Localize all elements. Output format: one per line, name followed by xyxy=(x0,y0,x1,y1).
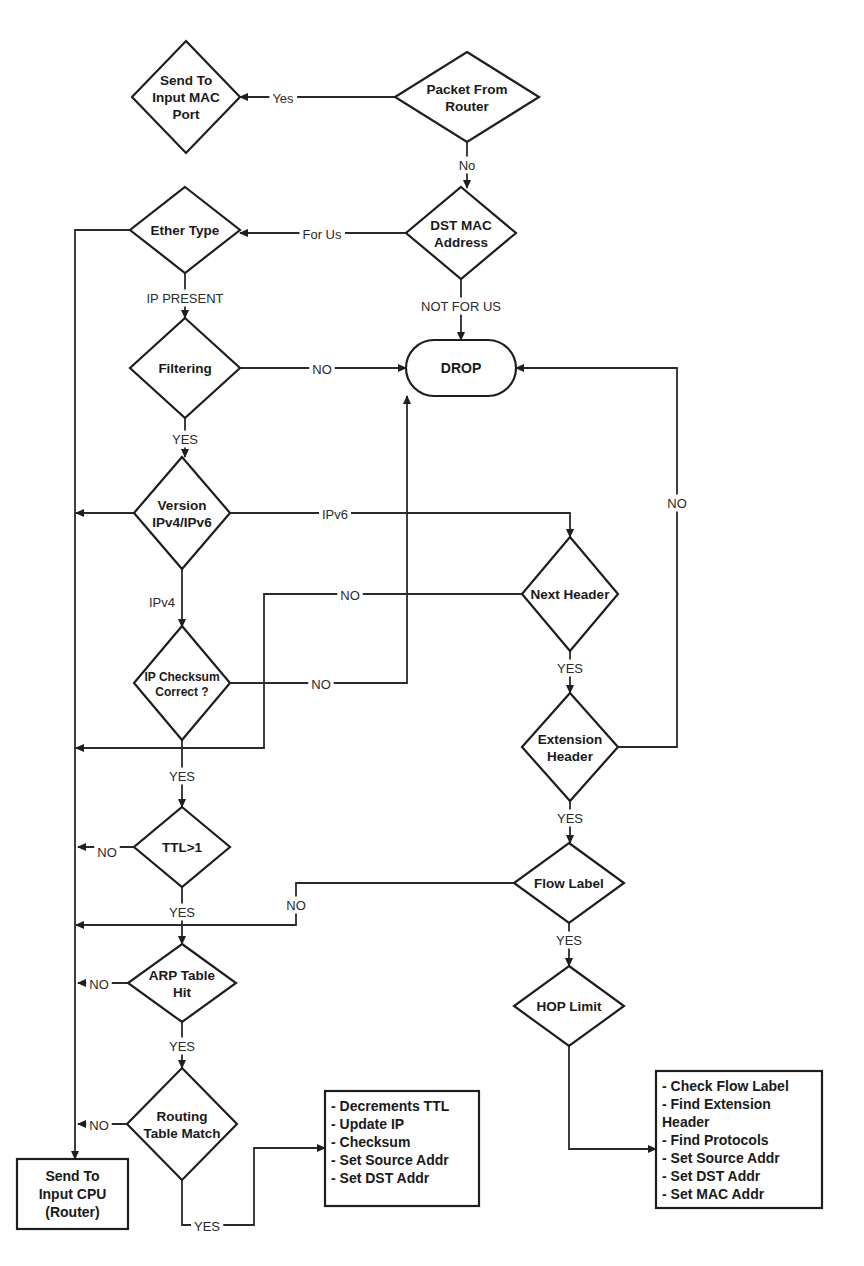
edge-label-filtering-yes: YES xyxy=(169,431,201,448)
node-label: - Find Extension xyxy=(662,1096,771,1112)
node-label: Hit xyxy=(173,985,192,1000)
edge-version-ipv6 xyxy=(230,513,570,537)
edge-label-text: For Us xyxy=(303,227,343,242)
flowchart-canvas: Packet FromRouterSend ToInput MACPortDST… xyxy=(0,0,864,1266)
node-label: ARP Table xyxy=(149,968,216,983)
edge-label-text: YES xyxy=(556,933,582,948)
edge-label-text: YES xyxy=(172,432,198,447)
connector-line xyxy=(230,396,407,683)
node-label: - Set Source Addr xyxy=(662,1150,780,1166)
node-label: - Set MAC Addr xyxy=(662,1186,765,1202)
node-dst-mac-address: DST MACAddress xyxy=(406,187,516,279)
connector-line xyxy=(569,1046,656,1149)
node-drop: DROP xyxy=(406,340,516,396)
node-filtering: Filtering xyxy=(130,318,240,418)
edge-label-dst-not-for-us: NOT FOR US xyxy=(418,298,504,315)
edge-label-next-header-no: NO xyxy=(337,587,363,604)
node-label: - Set DST Addr xyxy=(331,1170,430,1186)
node-label: (Router) xyxy=(45,1204,99,1220)
edge-label-dst-for-us: For Us xyxy=(300,226,346,243)
node-label: Extension xyxy=(538,732,603,747)
decision-diamond xyxy=(127,1068,237,1180)
node-label: Filtering xyxy=(158,361,211,376)
decision-diamond xyxy=(128,944,236,1022)
edge-label-ttl-no: NO xyxy=(94,844,120,861)
edge-label-ttl-yes: YES xyxy=(166,904,198,921)
edge-label-text: NO xyxy=(667,496,687,511)
node-label: Table Match xyxy=(143,1126,220,1141)
decision-diamond xyxy=(406,187,516,279)
edge-label-router-no: No xyxy=(456,157,479,174)
edge-label-flow-label-no: NO xyxy=(283,897,309,914)
edge-label-text: YES xyxy=(557,661,583,676)
edge-label-router-yes: Yes xyxy=(269,90,297,107)
decision-diamond xyxy=(395,52,539,142)
edge-label-extension-no: NO xyxy=(664,495,690,512)
node-extension-header: ExtensionHeader xyxy=(522,693,618,801)
edge-label-filtering-no: NO xyxy=(309,361,335,378)
node-label: - Decrements TTL xyxy=(331,1098,450,1114)
node-ipv4-actions: - Decrements TTL- Update IP- Checksum- S… xyxy=(325,1091,479,1206)
edge-label-text: YES xyxy=(194,1219,220,1234)
edge-label-text: NO xyxy=(312,362,332,377)
node-label: Address xyxy=(434,235,488,250)
node-label: - Checksum xyxy=(331,1134,410,1150)
connector-line xyxy=(75,230,130,1159)
edge-label-text: NO xyxy=(89,1118,109,1133)
edge-hop-limit-out xyxy=(569,1046,656,1149)
edge-extension-no xyxy=(516,368,677,747)
node-label: Header xyxy=(547,749,594,764)
edge-label-text: YES xyxy=(169,769,195,784)
edge-label-routing-no: NO xyxy=(86,1117,112,1134)
decision-diamond xyxy=(522,693,618,801)
node-packet-from-router: Packet FromRouter xyxy=(395,52,539,142)
node-send-to-input-mac-port: Send ToInput MACPort xyxy=(132,41,240,153)
edge-label-next-header-yes: YES xyxy=(554,660,586,677)
node-label: Packet From xyxy=(426,82,507,97)
node-label: Correct ? xyxy=(155,685,208,699)
nodes-layer: Packet FromRouterSend ToInput MACPortDST… xyxy=(17,41,822,1229)
node-ether-type: Ether Type xyxy=(130,187,240,273)
edge-label-text: NO xyxy=(89,977,109,992)
node-label: DROP xyxy=(441,360,481,376)
edge-label-text: No xyxy=(459,158,476,173)
node-label: DST MAC xyxy=(430,218,492,233)
edge-label-text: YES xyxy=(557,811,583,826)
node-label: Input MAC xyxy=(152,90,220,105)
node-flow-label: Flow Label xyxy=(514,843,624,923)
node-label: - Set DST Addr xyxy=(662,1168,761,1184)
node-routing-table-match: RoutingTable Match xyxy=(127,1068,237,1180)
node-label: Routing xyxy=(157,1109,208,1124)
node-label: - Find Protocols xyxy=(662,1132,769,1148)
edge-ether-other xyxy=(75,230,130,1159)
node-label: HOP Limit xyxy=(536,999,602,1014)
node-label: Next Header xyxy=(531,587,611,602)
connector-line xyxy=(516,368,677,747)
edge-label-text: NO xyxy=(311,677,331,692)
edge-label-extension-yes: YES xyxy=(554,810,586,827)
node-label: - Update IP xyxy=(331,1116,404,1132)
node-hop-limit: HOP Limit xyxy=(514,966,624,1046)
edge-label-text: NOT FOR US xyxy=(421,299,501,314)
connector-line xyxy=(230,513,570,537)
edge-label-flow-label-yes: YES xyxy=(553,932,585,949)
edge-label-text: NO xyxy=(97,845,117,860)
node-label: Flow Label xyxy=(534,876,604,891)
edge-label-ip-checksum-yes: YES xyxy=(166,768,198,785)
edge-label-routing-yes: YES xyxy=(191,1218,223,1235)
node-arp-table-hit: ARP TableHit xyxy=(128,944,236,1022)
node-label: - Check Flow Label xyxy=(662,1078,789,1094)
node-label: Ether Type xyxy=(151,223,220,238)
node-label: Port xyxy=(173,107,201,122)
node-label: IPv4/IPv6 xyxy=(152,515,212,530)
edge-label-version-ipv4: IPv4 xyxy=(146,594,178,611)
edge-label-text: IP PRESENT xyxy=(146,291,223,306)
node-label: - Set Source Addr xyxy=(331,1152,449,1168)
edge-label-arp-yes: YES xyxy=(166,1038,198,1055)
edge-label-text: NO xyxy=(286,898,306,913)
node-label: Header xyxy=(662,1114,710,1130)
node-label: TTL>1 xyxy=(162,840,203,855)
node-label: IP Checksum xyxy=(144,670,219,684)
edge-label-text: Yes xyxy=(272,91,294,106)
edge-ip-checksum-no xyxy=(230,396,407,683)
